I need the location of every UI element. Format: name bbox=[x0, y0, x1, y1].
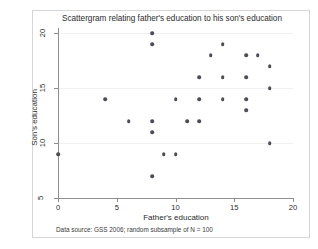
data-point bbox=[197, 119, 201, 123]
x-tick-0 bbox=[58, 198, 59, 202]
data-point bbox=[103, 97, 107, 101]
data-point bbox=[268, 141, 272, 145]
data-point bbox=[244, 75, 248, 79]
data-point bbox=[162, 152, 166, 156]
data-point bbox=[185, 119, 189, 123]
gridline-y-20 bbox=[58, 33, 293, 34]
gridline-y-15 bbox=[58, 88, 293, 89]
y-tick-label-5: 5 bbox=[36, 196, 45, 200]
data-point bbox=[221, 75, 225, 79]
data-point bbox=[197, 75, 201, 79]
data-point bbox=[244, 53, 248, 57]
data-point bbox=[150, 130, 154, 134]
data-point bbox=[150, 42, 154, 46]
y-tick-label-20: 20 bbox=[38, 29, 47, 37]
scatterplot-figure: Scattergram relating father's education … bbox=[0, 0, 318, 249]
y-tick-label-10: 10 bbox=[38, 139, 47, 147]
data-point bbox=[221, 97, 225, 101]
y-tick-label-15: 15 bbox=[38, 84, 47, 92]
y-tick-10 bbox=[54, 143, 58, 144]
data-point bbox=[56, 152, 60, 156]
x-tick-label-15: 15 bbox=[230, 203, 238, 212]
y-tick-15 bbox=[54, 88, 58, 89]
data-point bbox=[268, 64, 272, 68]
data-point bbox=[150, 31, 154, 35]
x-tick-5 bbox=[117, 198, 118, 202]
data-point bbox=[127, 119, 131, 123]
x-tick-label-20: 20 bbox=[289, 203, 297, 212]
x-tick-label-5: 5 bbox=[115, 203, 119, 212]
data-point bbox=[174, 97, 178, 101]
gridline-y-10 bbox=[58, 143, 293, 144]
data-point bbox=[150, 119, 154, 123]
y-axis-line bbox=[58, 28, 59, 199]
data-point bbox=[174, 152, 178, 156]
x-tick-label-0: 0 bbox=[56, 203, 60, 212]
data-point bbox=[268, 86, 272, 90]
data-point bbox=[197, 97, 201, 101]
chart-title: Scattergram relating father's education … bbox=[34, 14, 310, 23]
data-point bbox=[221, 42, 225, 46]
data-point bbox=[150, 174, 154, 178]
x-tick-15 bbox=[234, 198, 235, 202]
x-tick-label-10: 10 bbox=[171, 203, 179, 212]
y-tick-20 bbox=[54, 33, 58, 34]
x-axis-title: Father's education bbox=[58, 213, 294, 222]
x-tick-20 bbox=[293, 198, 294, 202]
y-tick-5 bbox=[54, 198, 58, 199]
data-point bbox=[244, 97, 248, 101]
data-point bbox=[256, 53, 260, 57]
y-axis-title: Son's education bbox=[30, 48, 39, 188]
data-point bbox=[209, 53, 213, 57]
data-point bbox=[244, 108, 248, 112]
source-note: Data source: GSS 2006; random subsample … bbox=[56, 226, 213, 233]
x-tick-10 bbox=[176, 198, 177, 202]
